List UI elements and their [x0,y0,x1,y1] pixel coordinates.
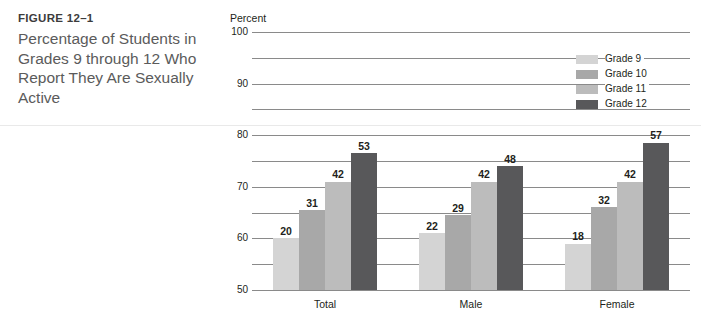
bar[interactable]: 57 [643,143,669,290]
bar[interactable]: 18 [565,244,591,290]
x-axis-category-label: Male [460,298,483,310]
x-axis-category-label: Female [599,298,634,310]
bar-value-label: 53 [358,141,370,152]
bar-value-label: 22 [426,221,438,232]
y-axis-tick-label: 60 [237,233,248,243]
bar[interactable]: 53 [351,153,377,290]
legend-label: Grade 9 [605,54,644,64]
chart-legend: Grade 9Grade 10Grade 11Grade 12 [576,52,686,112]
legend-item[interactable]: Grade 12 [576,97,686,111]
bar[interactable]: 42 [325,182,351,290]
bar-value-label: 48 [504,154,516,165]
bar-value-label: 20 [280,226,292,237]
legend-swatch [576,85,598,94]
bar[interactable]: 42 [617,182,643,290]
bar-group: 22294248Male [419,32,523,290]
legend-item[interactable]: Grade 11 [576,82,686,96]
bar-value-label: 57 [650,130,662,141]
y-axis-tick-label: 100 [231,27,248,37]
legend-label: Grade 11 [605,84,649,94]
bar-value-label: 18 [572,231,584,242]
bar-value-label: 29 [452,203,464,214]
bar-chart: Percent 010203040506070809010020314253To… [228,12,694,308]
figure-title: Percentage of Students in Grades 9 throu… [18,29,218,107]
bar[interactable]: 22 [419,233,445,290]
bar[interactable]: 42 [471,182,497,290]
legend-label: Grade 10 [605,69,650,79]
bar[interactable]: 29 [445,215,471,290]
x-axis-category-label: Total [314,298,336,310]
legend-label: Grade 12 [605,99,650,109]
bar[interactable]: 48 [497,166,523,290]
legend-swatch [576,55,598,64]
bar[interactable]: 20 [273,238,299,290]
y-axis-tick-label: 80 [237,130,248,140]
y-axis-tick-label: 70 [237,182,248,192]
y-axis-title: Percent [230,12,266,24]
y-axis-tick-label: 90 [237,79,248,89]
legend-swatch [576,100,598,109]
legend-swatch [576,70,598,79]
bar[interactable]: 32 [591,207,617,290]
bar-value-label: 42 [332,169,344,180]
bar-value-label: 32 [598,195,610,206]
bar-value-label: 31 [306,198,318,209]
legend-item[interactable]: Grade 9 [576,52,686,66]
figure-number: FIGURE 12–1 [18,12,218,24]
figure-caption: FIGURE 12–1 Percentage of Students in Gr… [18,12,218,107]
x-axis-line: 0 [252,290,690,291]
y-axis-tick-label: 50 [237,285,248,295]
bar-value-label: 42 [624,169,636,180]
legend-item[interactable]: Grade 10 [576,67,686,81]
bar-group: 20314253Total [273,32,377,290]
bar-value-label: 42 [478,169,490,180]
bar[interactable]: 31 [299,210,325,290]
